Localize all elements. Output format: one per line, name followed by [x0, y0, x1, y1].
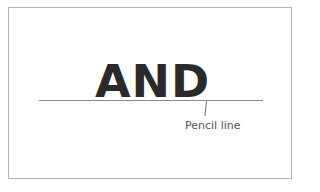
pencil-baseline	[39, 100, 263, 101]
annotation-label: Pencil line	[185, 119, 241, 133]
lettering-word: AND	[95, 58, 210, 103]
